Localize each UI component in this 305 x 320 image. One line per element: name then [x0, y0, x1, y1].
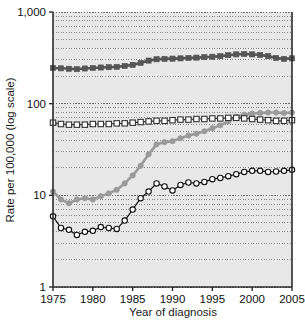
data-point-marker [218, 123, 223, 128]
data-point-marker [74, 67, 79, 72]
data-point-marker [66, 227, 71, 232]
data-point-marker [273, 110, 278, 115]
data-point-marker [257, 168, 262, 173]
data-point-marker [266, 54, 271, 59]
data-point-marker [90, 228, 95, 233]
data-point-marker [170, 188, 175, 193]
data-point-marker [234, 172, 239, 177]
data-point-marker [130, 173, 135, 178]
x-tick-label: 1990 [160, 293, 186, 305]
data-point-marker [74, 197, 79, 202]
data-point-marker [178, 136, 183, 141]
data-point-marker [122, 121, 127, 126]
data-point-marker [202, 55, 207, 60]
data-point-marker [210, 125, 215, 130]
data-point-marker [138, 60, 143, 65]
data-point-marker [98, 65, 103, 70]
x-tick-label: 1975 [40, 293, 66, 305]
data-point-marker [281, 110, 286, 115]
data-point-marker [281, 118, 286, 123]
data-point-marker [154, 57, 159, 62]
data-point-marker [138, 163, 143, 168]
data-point-marker [106, 65, 111, 70]
data-point-marker [242, 51, 247, 56]
data-point-marker [242, 116, 247, 121]
x-tick-label: 1995 [200, 293, 226, 305]
data-point-marker [170, 138, 175, 143]
data-point-marker [202, 129, 207, 134]
data-point-marker [146, 58, 151, 63]
data-point-marker [186, 180, 191, 185]
data-point-marker [265, 118, 270, 123]
y-axis-title: Rate per 100,000 (log scale) [4, 77, 16, 222]
data-point-marker [249, 111, 254, 116]
data-point-marker [90, 121, 95, 126]
data-point-marker [58, 225, 63, 230]
data-point-marker [210, 116, 215, 121]
data-point-marker [210, 176, 215, 181]
x-tick-label: 2005 [279, 293, 305, 305]
data-point-marker [90, 197, 95, 202]
x-tick-label: 1980 [80, 293, 106, 305]
data-point-marker [273, 169, 278, 174]
plot-area-background [53, 12, 292, 287]
data-point-marker [218, 54, 223, 59]
data-point-marker [82, 66, 87, 71]
data-point-marker [66, 201, 71, 206]
y-axis-ticks: 1101001,000 [17, 6, 53, 293]
data-point-marker [74, 122, 79, 127]
data-point-marker [146, 119, 151, 124]
data-point-marker [162, 184, 167, 189]
data-point-marker [218, 175, 223, 180]
data-point-marker [154, 181, 159, 186]
x-tick-label: 1985 [120, 293, 146, 305]
data-point-marker [58, 66, 63, 71]
data-point-marker [281, 168, 286, 173]
data-point-marker [138, 119, 143, 124]
data-point-marker [146, 189, 151, 194]
data-point-marker [249, 116, 254, 121]
data-point-marker [58, 121, 63, 126]
data-point-marker [194, 131, 199, 136]
data-point-marker [114, 187, 119, 192]
data-point-marker [210, 54, 215, 59]
data-point-marker [82, 122, 87, 127]
data-point-marker [258, 52, 263, 57]
data-point-marker [265, 169, 270, 174]
data-point-marker [114, 226, 119, 231]
data-point-marker [186, 133, 191, 138]
data-point-marker [234, 115, 239, 120]
data-point-marker [265, 110, 270, 115]
data-point-marker [250, 52, 255, 57]
data-point-marker [122, 63, 127, 68]
data-point-marker [242, 169, 247, 174]
data-point-marker [178, 56, 183, 61]
data-point-marker [194, 181, 199, 186]
data-point-marker [154, 118, 159, 123]
x-axis-ticks: 1975198019851990199520002005 [40, 287, 305, 305]
data-point-marker [281, 56, 286, 61]
data-point-marker [186, 117, 191, 122]
y-tick-label: 100 [27, 98, 46, 110]
data-point-marker [218, 116, 223, 121]
data-point-marker [170, 118, 175, 123]
data-point-marker [178, 182, 183, 187]
y-tick-label: 10 [33, 189, 46, 201]
data-point-marker [234, 52, 239, 57]
data-point-marker [122, 181, 127, 186]
data-point-marker [74, 232, 79, 237]
x-axis-title: Year of diagnosis [129, 306, 217, 318]
data-point-marker [226, 53, 231, 58]
data-point-marker [66, 66, 71, 71]
data-point-marker [162, 118, 167, 123]
data-point-marker [106, 225, 111, 230]
data-point-marker [90, 65, 95, 70]
data-point-marker [66, 122, 71, 127]
data-point-marker [146, 152, 151, 157]
y-tick-label: 1 [40, 281, 46, 293]
data-point-marker [257, 110, 262, 115]
data-point-marker [186, 55, 191, 60]
data-point-marker [170, 56, 175, 61]
data-point-marker [58, 197, 63, 202]
data-point-marker [122, 218, 127, 223]
